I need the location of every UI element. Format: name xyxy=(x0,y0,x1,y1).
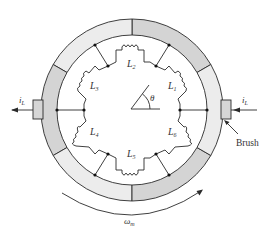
inductor-label-l3: L3 xyxy=(89,80,99,92)
angle-label-theta: θ xyxy=(150,93,155,103)
commutator-segment-4 xyxy=(53,148,132,202)
inductor-label-l1: L1 xyxy=(167,80,177,92)
right-arrow-icon xyxy=(233,108,240,113)
right-brush xyxy=(221,100,231,119)
left-brush xyxy=(33,100,43,119)
angle-marker xyxy=(131,85,160,109)
speed-label-omega-m: ωm xyxy=(124,216,135,227)
inductor-label-l2: L2 xyxy=(126,58,136,70)
rotation-arrowhead-icon xyxy=(197,190,204,196)
commutator-diagram: L2 L3 L1 L4 L6 L5 θ iL iL Brush ωm xyxy=(0,0,270,237)
left-current-lead xyxy=(11,108,33,113)
right-current-lead xyxy=(231,108,257,113)
current-label-left: iL xyxy=(19,95,26,106)
commutator-segment-1 xyxy=(132,19,211,73)
commutator-segment-2 xyxy=(53,19,132,73)
brush-label: Brush xyxy=(236,138,259,148)
inductor-label-l5: L5 xyxy=(126,148,136,160)
inductor-label-l6: L6 xyxy=(167,126,177,138)
inductor-label-l4: L4 xyxy=(89,126,99,138)
current-label-right: iL xyxy=(242,95,249,106)
left-arrow-icon xyxy=(11,108,18,113)
